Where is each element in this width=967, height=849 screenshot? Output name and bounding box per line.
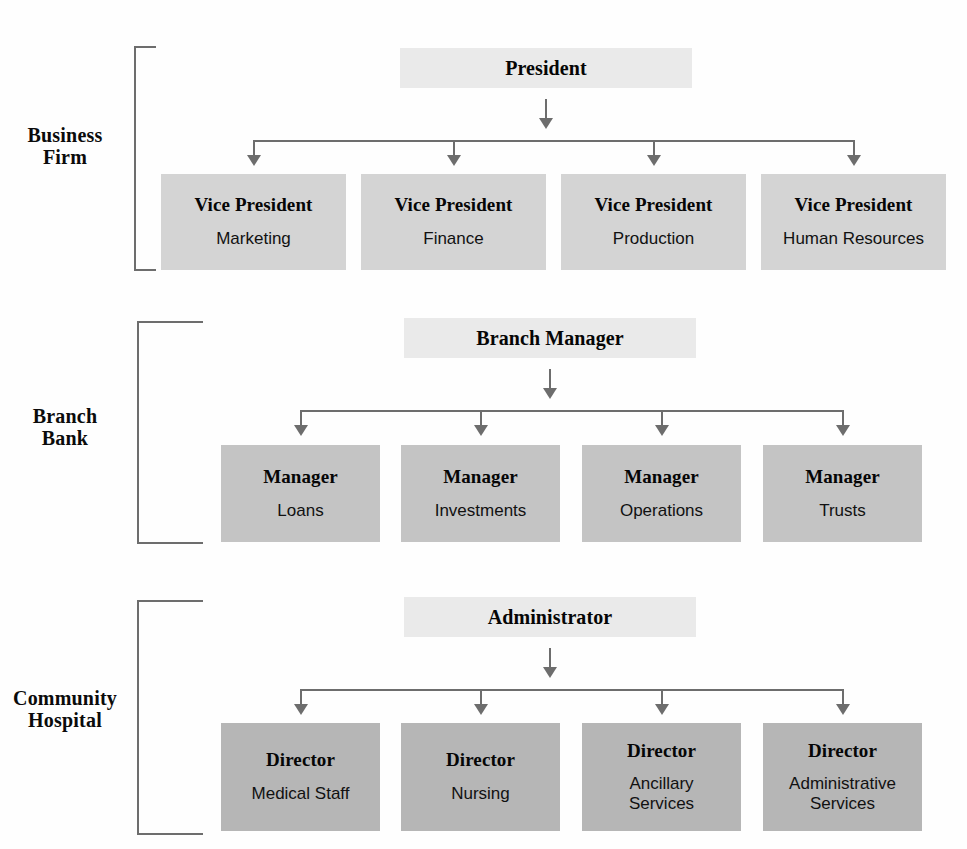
- node-subtitle-line-2: Services: [629, 794, 694, 814]
- down-arrow-icon: [247, 155, 261, 166]
- node-director-administrative-services[interactable]: Director Administrative Services: [763, 723, 922, 831]
- node-title: Director: [627, 741, 696, 762]
- node-director-nursing[interactable]: Director Nursing: [401, 723, 560, 831]
- section-label-branch-bank: Branch Bank: [0, 405, 130, 450]
- down-arrow-icon: [543, 388, 557, 399]
- node-manager-loans[interactable]: Manager Loans: [221, 445, 380, 542]
- node-subtitle-line-2: Services: [789, 794, 896, 814]
- section-label-line-2: Firm: [0, 146, 130, 168]
- node-subtitle-line-1: Nursing: [451, 784, 510, 803]
- node-president[interactable]: President: [400, 48, 692, 88]
- section-label-line-2: Hospital: [0, 709, 130, 731]
- down-arrow-icon: [655, 704, 669, 715]
- section-label-line-2: Bank: [0, 427, 130, 449]
- bracket-business-firm: [134, 46, 156, 271]
- org-charts-page: Business Firm President Vice President M…: [0, 0, 967, 849]
- node-title: Director: [266, 750, 335, 771]
- section-label-line-1: Business: [0, 124, 130, 146]
- down-arrow-icon: [647, 155, 661, 166]
- node-title: Manager: [805, 467, 880, 488]
- section-label-line-1: Community: [0, 687, 130, 709]
- down-arrow-icon: [294, 425, 308, 436]
- node-subtitle: Nursing: [451, 784, 510, 804]
- node-director-ancillary-services[interactable]: Director Ancillary Services: [582, 723, 741, 831]
- section-label-line-1: Branch: [0, 405, 130, 427]
- node-subtitle: Operations: [620, 501, 703, 521]
- node-title: Vice President: [594, 195, 712, 216]
- node-title: Vice President: [794, 195, 912, 216]
- down-arrow-icon: [836, 425, 850, 436]
- down-arrow-icon: [294, 704, 308, 715]
- bracket-community-hospital: [137, 600, 203, 835]
- connector-bus-2: [300, 410, 842, 412]
- bracket-branch-bank: [137, 321, 203, 544]
- down-arrow-icon: [655, 425, 669, 436]
- node-title: Director: [808, 741, 877, 762]
- node-subtitle: Loans: [277, 501, 323, 521]
- node-administrator[interactable]: Administrator: [404, 597, 696, 637]
- node-subtitle: Marketing: [216, 229, 291, 249]
- node-subtitle-line-1: Ancillary: [629, 774, 694, 794]
- node-subtitle-line-1: Administrative: [789, 774, 896, 794]
- node-manager-investments[interactable]: Manager Investments: [401, 445, 560, 542]
- connector-bus-1: [253, 140, 855, 142]
- node-subtitle: Ancillary Services: [629, 774, 694, 813]
- node-subtitle: Administrative Services: [789, 774, 896, 813]
- down-arrow-icon: [539, 118, 553, 129]
- node-vice-president-finance[interactable]: Vice President Finance: [361, 174, 546, 270]
- node-vice-president-human-resources[interactable]: Vice President Human Resources: [761, 174, 946, 270]
- node-subtitle: Production: [613, 229, 694, 249]
- node-manager-operations[interactable]: Manager Operations: [582, 445, 741, 542]
- section-label-community-hospital: Community Hospital: [0, 687, 130, 732]
- section-label-business-firm: Business Firm: [0, 124, 130, 169]
- node-vice-president-marketing[interactable]: Vice President Marketing: [161, 174, 346, 270]
- node-subtitle: Trusts: [819, 501, 866, 521]
- down-arrow-icon: [474, 425, 488, 436]
- node-manager-trusts[interactable]: Manager Trusts: [763, 445, 922, 542]
- node-director-medical-staff[interactable]: Director Medical Staff: [221, 723, 380, 831]
- down-arrow-icon: [543, 667, 557, 678]
- node-subtitle: Human Resources: [783, 229, 924, 249]
- down-arrow-icon: [474, 704, 488, 715]
- node-title: President: [505, 57, 587, 79]
- node-title: Director: [446, 750, 515, 771]
- down-arrow-icon: [847, 155, 861, 166]
- node-title: Branch Manager: [476, 327, 624, 349]
- node-title: Manager: [443, 467, 518, 488]
- node-subtitle-line-1: Medical Staff: [252, 784, 350, 803]
- node-title: Vice President: [194, 195, 312, 216]
- node-title: Manager: [263, 467, 338, 488]
- node-branch-manager[interactable]: Branch Manager: [404, 318, 696, 358]
- node-vice-president-production[interactable]: Vice President Production: [561, 174, 746, 270]
- node-title: Vice President: [394, 195, 512, 216]
- node-title: Administrator: [488, 606, 613, 628]
- node-subtitle: Investments: [435, 501, 527, 521]
- down-arrow-icon: [447, 155, 461, 166]
- down-arrow-icon: [836, 704, 850, 715]
- connector-bus-3: [300, 689, 842, 691]
- node-subtitle: Finance: [423, 229, 483, 249]
- node-title: Manager: [624, 467, 699, 488]
- node-subtitle: Medical Staff: [252, 784, 350, 804]
